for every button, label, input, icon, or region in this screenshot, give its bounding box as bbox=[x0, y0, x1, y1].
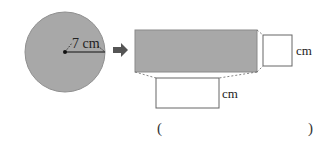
rectangle bbox=[135, 30, 257, 72]
right-arrow-icon bbox=[113, 43, 128, 57]
side-answer-box[interactable] bbox=[263, 35, 292, 66]
connector-dashed bbox=[135, 72, 156, 78]
connector-dashed bbox=[257, 66, 263, 72]
answer-blank[interactable] bbox=[187, 120, 307, 138]
connector-dashed bbox=[219, 72, 257, 78]
radius-label: 7 cm bbox=[72, 36, 100, 51]
answer-close-paren: ) bbox=[308, 120, 313, 137]
connector-dashed bbox=[257, 30, 263, 35]
center-dot bbox=[63, 50, 67, 54]
bottom-answer-box[interactable] bbox=[156, 78, 219, 108]
answer-open-paren: ( bbox=[157, 120, 162, 137]
side-unit-label: cm bbox=[296, 43, 312, 58]
bottom-unit-label: cm bbox=[222, 86, 238, 101]
